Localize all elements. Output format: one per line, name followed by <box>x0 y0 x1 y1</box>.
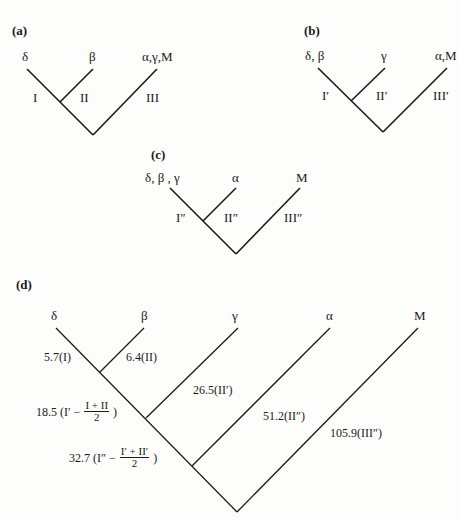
panel-a-label: (a) <box>12 24 27 37</box>
internal2-fraction: I′ + II′ 2 <box>120 446 150 469</box>
tree-d-length-alpha: 51.2(II″) <box>263 410 305 422</box>
panel-b-label: (b) <box>304 24 320 37</box>
tree-a-leaf-beta: β <box>89 50 96 63</box>
tree-b-leaf-delta-beta: δ, β <box>305 49 324 62</box>
tree-b-leaf-alpha-M: α,M <box>435 49 457 62</box>
tree-d-length-internal1: 18.5 (I′ − I + II 2 ) <box>36 400 117 423</box>
internal1-value: 18.5 <box>36 406 57 418</box>
internal1-fraction: I + II 2 <box>84 400 109 423</box>
tree-d-length-gamma: 26.5(II′) <box>193 384 233 396</box>
tree-c-branch-label-III-dprime: III″ <box>284 211 302 224</box>
tree-d-length-M: 105.9(III″) <box>330 427 382 439</box>
tree-d-length-internal2: 32.7 (I″ − I′ + II′ 2 ) <box>69 446 157 469</box>
panel-d-label: (d) <box>16 278 32 291</box>
tree-b-branch-label-II-prime: II′ <box>376 89 388 102</box>
tree-c-leaf-delta-beta-gamma: δ, β , γ <box>145 171 180 184</box>
tree-a-branch-label-II: II <box>80 91 89 104</box>
internal1-suffix: ) <box>113 406 117 418</box>
internal1-denominator: 2 <box>94 412 100 423</box>
tree-a-branch-label-I: I <box>33 91 37 104</box>
internal2-value: 32.7 <box>69 452 90 464</box>
tree-c-leaf-alpha: α <box>232 171 239 184</box>
internal2-prefix: (I″ − <box>93 452 116 464</box>
tree-d-leaf-beta: β <box>141 309 148 322</box>
tree-d-length-beta: 6.4(II) <box>126 351 157 363</box>
panel-c-label: (c) <box>151 148 165 161</box>
tree-d-length-delta: 5.7(I) <box>44 351 71 363</box>
tree-a-leaf-delta: δ <box>22 50 28 63</box>
tree-d-branch-gamma <box>146 328 238 418</box>
internal2-suffix: ) <box>153 452 157 464</box>
tree-d-leaf-M: M <box>414 309 426 322</box>
tree-a-leaf-agm: α,γ,M <box>142 50 173 63</box>
tree-b-branch-label-III-prime: III′ <box>433 89 449 102</box>
tree-d-leaf-alpha: α <box>326 309 333 322</box>
tree-a-branch-label-III: III <box>146 91 159 104</box>
tree-c-branch-label-I-dprime: I″ <box>176 211 186 224</box>
tree-d-leaf-gamma: γ <box>232 309 238 322</box>
tree-c-branch-label-II-dprime: II″ <box>224 211 238 224</box>
tree-c-leaf-M: M <box>296 171 308 184</box>
internal1-prefix: (I′ − <box>60 406 80 418</box>
tree-b-leaf-gamma: γ <box>381 49 387 62</box>
tree-lines <box>0 0 460 520</box>
internal2-denominator: 2 <box>132 458 138 469</box>
tree-d-branch-alpha <box>192 328 330 466</box>
tree-b-branch-label-I-prime: I′ <box>322 89 329 102</box>
tree-d-leaf-delta: δ <box>51 309 57 322</box>
